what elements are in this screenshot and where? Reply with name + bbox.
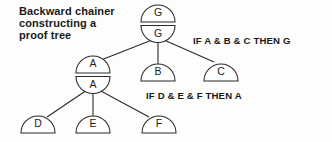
proof-tree-diagram: G G A A B C D [0, 0, 332, 142]
node-leaf-e-label: E [89, 117, 96, 129]
node-subgoal-a[interactable]: A A [76, 56, 110, 94]
caption-line-1: Backward chainer [19, 5, 115, 17]
node-leaf-f[interactable]: F [142, 116, 176, 133]
node-leaf-c[interactable]: C [204, 64, 238, 81]
node-leaf-c-label: C [217, 65, 225, 77]
node-leaf-f-label: F [156, 117, 162, 129]
caption-line-3: proof tree [19, 29, 71, 41]
caption-line-2: constructing a [19, 17, 97, 29]
rule-label-top: IF A & B & C THEN G [193, 35, 291, 46]
node-goal-g[interactable]: G G [141, 5, 175, 43]
node-leaf-b-label: B [154, 65, 161, 77]
edge-g-to-a [96, 40, 152, 62]
node-leaf-e[interactable]: E [76, 116, 110, 133]
node-leaf-b[interactable]: B [141, 64, 175, 81]
edge-a-to-d [47, 90, 87, 117]
rule-label-bottom: IF D & E & F THEN A [146, 90, 242, 101]
node-subgoal-a-upper-label: A [89, 57, 96, 69]
node-goal-g-upper-label: G [154, 6, 162, 18]
node-subgoal-a-lower-label: A [89, 78, 96, 90]
edge-a-to-f [99, 90, 149, 117]
caption-block: Backward chainer constructing a proof tr… [19, 5, 115, 41]
edge-group [47, 40, 214, 132]
node-leaf-d-label: D [34, 117, 42, 129]
node-leaf-d[interactable]: D [21, 116, 55, 133]
node-goal-g-lower-label: G [154, 27, 162, 39]
